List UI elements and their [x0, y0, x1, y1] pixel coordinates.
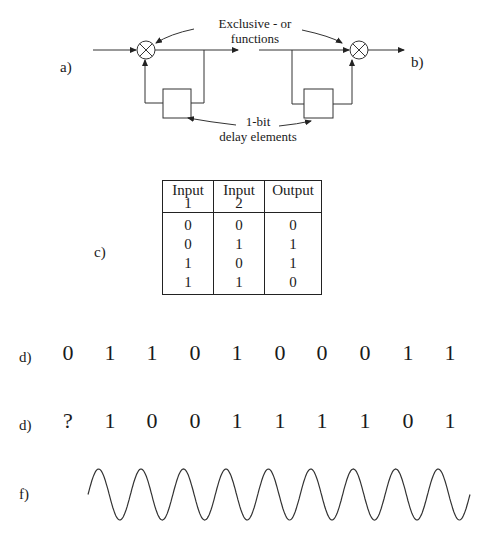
bit: 1	[312, 408, 332, 434]
bit: 0	[312, 340, 332, 366]
label-f: f)	[19, 486, 29, 503]
header-input-1: Input1	[163, 181, 214, 213]
xor-pointer-arrow-a	[156, 29, 194, 43]
bit: 0	[270, 340, 290, 366]
xor-truth-table: Input1 Input2 Output 000 011 101 110	[162, 180, 322, 295]
bit: 1	[227, 408, 247, 434]
bit: 1	[270, 408, 290, 434]
xor-annotation-line1: Exclusive - or	[200, 16, 310, 31]
bit-sequence-encoded: d) ? 1 0 0 1 1 1 1 0 1	[0, 408, 488, 438]
bit: 0	[185, 340, 205, 366]
bit: 1	[398, 340, 418, 366]
label-c: c)	[94, 244, 106, 261]
table-row: 110	[163, 273, 322, 295]
header-output: Output	[265, 181, 322, 213]
table-row: 101	[163, 254, 322, 273]
xor-gate-icon-a	[137, 41, 155, 59]
delay-return-b	[333, 60, 352, 104]
bit: 0	[185, 408, 205, 434]
bit: 1	[100, 408, 120, 434]
feedback-tap-a	[191, 50, 204, 103]
header-input-2: Input2	[214, 181, 265, 213]
bit: 0	[355, 340, 375, 366]
bit: 1	[100, 340, 120, 366]
bit: 1	[227, 340, 247, 366]
delay-annotation-line2: delay elements	[208, 129, 308, 144]
delay-annotation-line1: 1-bit	[208, 114, 308, 129]
feedforward-tap-b	[292, 50, 304, 104]
bit: 1	[355, 408, 375, 434]
delay-box-b	[304, 89, 333, 118]
delay-annotation: 1-bit delay elements	[208, 114, 308, 144]
bit: 1	[440, 340, 460, 366]
label-a: a)	[60, 59, 72, 76]
bit: 0	[58, 340, 78, 366]
row-label: d)	[19, 417, 32, 434]
xor-annotation-line2: functions	[200, 31, 310, 46]
bit: 1	[142, 340, 162, 366]
phase-waveform	[88, 469, 470, 520]
xor-annotation: Exclusive - or functions	[200, 16, 310, 46]
table-row: 000	[163, 213, 322, 236]
delay-box-a	[163, 89, 191, 118]
bit-sequence-input: d) 0 1 1 0 1 0 0 0 1 1	[0, 340, 488, 370]
row-label: d)	[19, 349, 32, 366]
bit: 1	[440, 408, 460, 434]
table-row: 011	[163, 235, 322, 254]
bit: 0	[398, 408, 418, 434]
feedback-return-a	[145, 60, 163, 103]
label-b: b)	[411, 54, 424, 71]
xor-gate-icon-b	[350, 41, 368, 59]
bit: ?	[58, 408, 78, 434]
bit: 0	[142, 408, 162, 434]
